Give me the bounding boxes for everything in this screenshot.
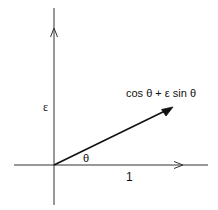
vector-label: cos θ + ε sin θ — [126, 87, 196, 99]
dual-number-diagram: ε cos θ + ε sin θ θ 1 — [0, 0, 218, 210]
vector-arrow — [54, 107, 173, 165]
angle-label: θ — [83, 152, 89, 164]
vertical-axis — [51, 8, 58, 205]
horizontal-axis — [14, 162, 208, 169]
horizontal-tick-label: 1 — [126, 170, 133, 184]
vertical-axis-label: ε — [43, 100, 48, 114]
vector-arrowhead-icon — [162, 107, 174, 116]
